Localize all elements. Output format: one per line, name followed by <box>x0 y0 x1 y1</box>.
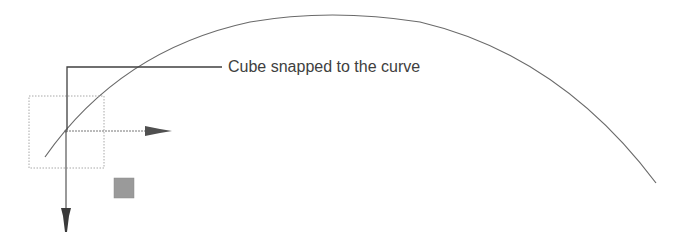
x-axis-arrow-icon <box>145 126 172 136</box>
curve <box>45 15 656 183</box>
origin-point <box>65 130 68 133</box>
annotation-label: Cube snapped to the curve <box>228 58 420 76</box>
diagram-drawing <box>0 0 677 244</box>
diagram-canvas: Cube snapped to the curve <box>0 0 677 244</box>
y-axis-arrow-icon <box>61 208 71 232</box>
snap-square-icon <box>114 178 134 198</box>
leader-line <box>67 67 222 130</box>
